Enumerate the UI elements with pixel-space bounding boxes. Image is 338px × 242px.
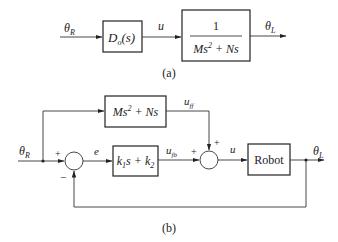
theta-r-label-a: θR (64, 21, 75, 37)
theta-l-label-a: θL (265, 19, 276, 35)
diagram-a: θR Do(s) u 1 Ms2 + Ns θL (a) (60, 10, 286, 80)
sum1-plus: + (55, 148, 61, 159)
caption-a: (a) (162, 66, 175, 80)
u-label-a: u (158, 19, 164, 33)
block-diagram: θR Do(s) u 1 Ms2 + Ns θL (a) θR Ms2 + Ns… (0, 0, 338, 242)
uff-path (166, 111, 209, 150)
error-label: e (94, 145, 99, 157)
ufb-label: ufb (166, 144, 177, 159)
theta-r-label-b: θR (19, 144, 30, 160)
sum2-plus-top: + (214, 137, 220, 148)
caption-b: (b) (162, 221, 176, 235)
plant-denominator: Ms2 + Ns (192, 41, 239, 56)
controller-label: Do(s) (107, 30, 135, 47)
plant-numerator: 1 (213, 19, 219, 33)
sum1-minus: − (60, 171, 66, 183)
diagram-b: θR Ms2 + Ns uff + − e k1s + k2 ufb + + u… (18, 95, 324, 235)
u-label-b: u (230, 143, 236, 155)
uff-label: uff (184, 95, 194, 110)
feedforward-label: Ms2 + Ns (112, 104, 159, 119)
sum2-plus-left: + (191, 146, 197, 157)
theta-l-label-b: θL (313, 144, 324, 160)
robot-label: Robot (254, 153, 284, 167)
summing-junction-1 (65, 152, 83, 170)
summing-junction-2 (200, 151, 218, 169)
